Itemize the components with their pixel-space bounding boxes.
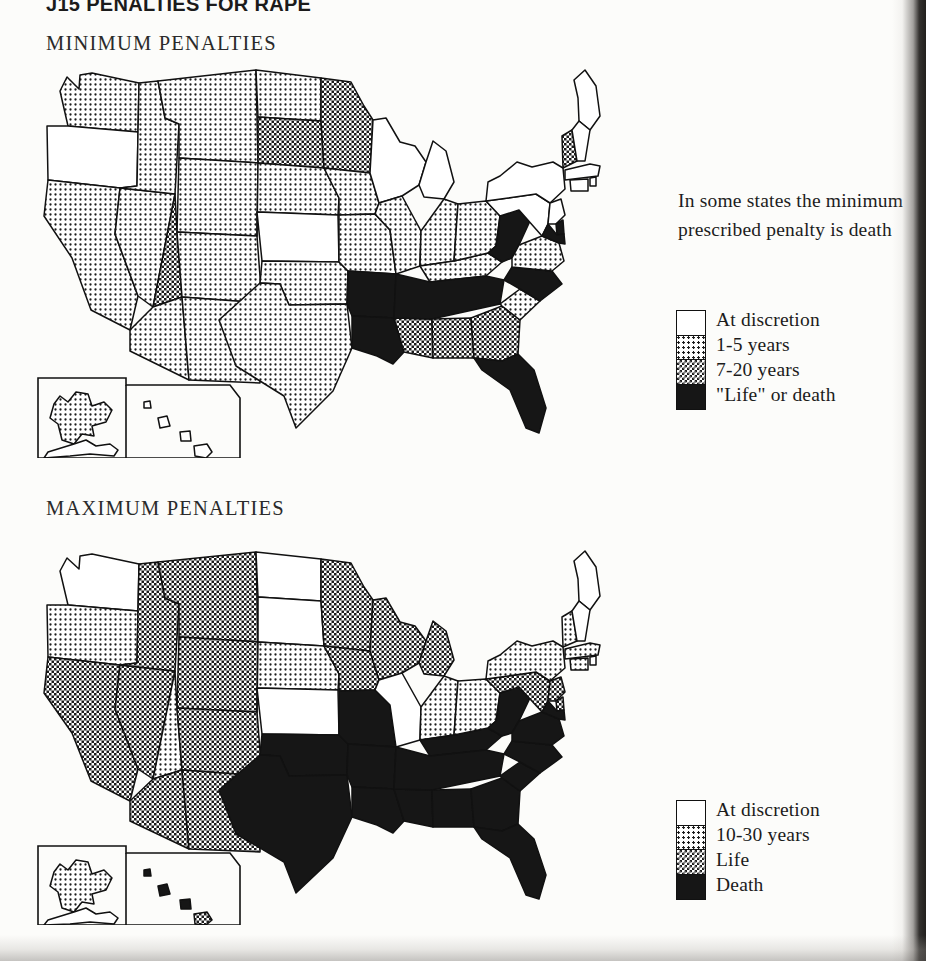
legend-label-life: Life [716, 847, 820, 872]
legend-label-death: Death [716, 872, 820, 897]
section-label-minimum: MINIMUM PENALTIES [46, 32, 277, 55]
state-CT [570, 179, 588, 191]
state-ND [256, 552, 321, 601]
state-AK [50, 860, 112, 912]
state-HI-3 [180, 431, 191, 441]
legend-swatch-life-or-death [677, 385, 705, 410]
legend-label-1-5-years: 1-5 years [716, 332, 836, 357]
state-ME [574, 551, 600, 610]
state-MI [419, 621, 454, 676]
section-label-maximum: MAXIMUM PENALTIES [46, 497, 285, 520]
state-WI [370, 118, 426, 203]
state-AL [432, 318, 474, 358]
state-WA [60, 73, 139, 132]
legend-swatch-at-discretion-max [677, 801, 705, 826]
legend-swatch-7-20-years [677, 360, 705, 385]
legend-label-life-or-death: "Life" or death [716, 382, 836, 407]
state-HI-3 [180, 899, 191, 909]
state-AZ [130, 297, 189, 380]
state-HI-4 [194, 912, 212, 925]
state-ND [256, 70, 321, 121]
state-FL [474, 824, 546, 899]
map-maximum-penalties [34, 543, 634, 925]
state-MN [321, 559, 373, 651]
state-FL [474, 354, 546, 433]
state-SD [258, 597, 324, 646]
legend-swatch-death [677, 875, 705, 900]
state-AK [50, 392, 112, 444]
state-TX [219, 283, 352, 428]
state-WY [177, 637, 258, 712]
state-HI-2 [158, 416, 170, 428]
state-SD [258, 117, 324, 168]
legend-swatch-10-30-years [677, 826, 705, 851]
state-IN [420, 199, 458, 266]
legend-swatch-life [677, 850, 705, 875]
legend-label-10-30-years: 10-30 years [716, 822, 820, 847]
legend-label-at-discretion-max: At discretion [716, 797, 820, 822]
map-maximum-svg [34, 543, 634, 925]
state-KS [257, 212, 339, 262]
state-IN [420, 676, 458, 740]
state-ME [574, 70, 600, 130]
legend-swatch-at-discretion [677, 311, 705, 336]
state-RI [590, 656, 596, 665]
page-title: J15 PENALTIES FOR RAPE [46, 0, 311, 16]
state-AR [347, 744, 396, 789]
legend-swatch-1-5-years [677, 336, 705, 361]
state-HI-1 [144, 401, 151, 408]
state-AZ [130, 770, 189, 849]
state-RI [590, 177, 596, 186]
map-minimum-svg [34, 58, 634, 458]
state-OR [47, 126, 138, 188]
state-HI-1 [144, 869, 151, 876]
page-bottom-shadow [0, 935, 926, 961]
legend-minimum-swatches [676, 310, 706, 410]
state-MI [419, 141, 454, 199]
state-CT [570, 658, 588, 670]
state-TX [219, 755, 352, 893]
page-binding-shadow [892, 0, 926, 961]
page-sheet: J15 PENALTIES FOR RAPE MINIMUM PENALTIES… [0, 0, 926, 961]
state-AR [347, 271, 396, 318]
state-WY [177, 158, 258, 236]
state-AK-aleutian [44, 908, 118, 925]
state-KS [257, 688, 339, 735]
state-HI-2 [158, 884, 170, 896]
legend-label-at-discretion: At discretion [716, 307, 836, 332]
state-AL [432, 789, 474, 827]
state-OR [47, 605, 138, 665]
legend-maximum-labels: At discretion 10-30 years Life Death [716, 797, 820, 897]
state-WI [370, 598, 426, 680]
state-MN [321, 78, 373, 173]
state-HI-4 [194, 444, 212, 458]
legend-minimum-labels: At discretion 1-5 years 7-20 years "Life… [716, 307, 836, 407]
state-WA [60, 554, 139, 611]
legend-maximum-swatches [676, 800, 706, 900]
map-minimum-penalties [34, 58, 634, 458]
legend-label-7-20-years: 7-20 years [716, 357, 836, 382]
legend-note: In some states the minimum prescribed pe… [678, 186, 913, 244]
state-AK-aleutian [44, 440, 118, 458]
